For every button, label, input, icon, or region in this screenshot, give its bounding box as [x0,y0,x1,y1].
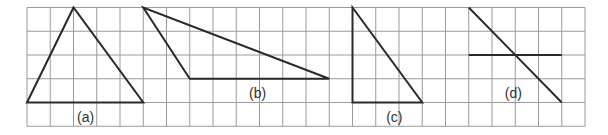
label-c: (c) [386,109,402,125]
grid-lines [27,8,585,127]
grid-diagram: (a) (b) (c) (d) [0,0,608,135]
label-d: (d) [505,85,522,101]
label-b: (b) [249,85,266,101]
label-a: (a) [77,109,94,125]
